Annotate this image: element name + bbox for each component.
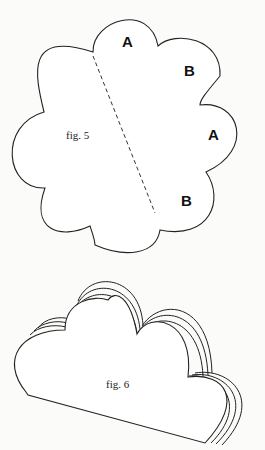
lobe-label-b-upper: B [184,62,195,79]
figure-5-flower: fig. 5 A B A B [12,20,237,253]
fig6-caption: fig. 6 [106,378,130,390]
lobe-label-a-top: A [122,33,133,50]
figure-6-cloud: fig. 6 [14,282,241,445]
fig5-caption: fig. 5 [66,129,90,141]
cloud-outline [14,296,227,443]
lobe-label-a-right: A [208,126,219,143]
lobe-label-b-lower: B [181,192,192,209]
diagram-canvas: fig. 5 A B A B fig. 6 [0,0,265,450]
